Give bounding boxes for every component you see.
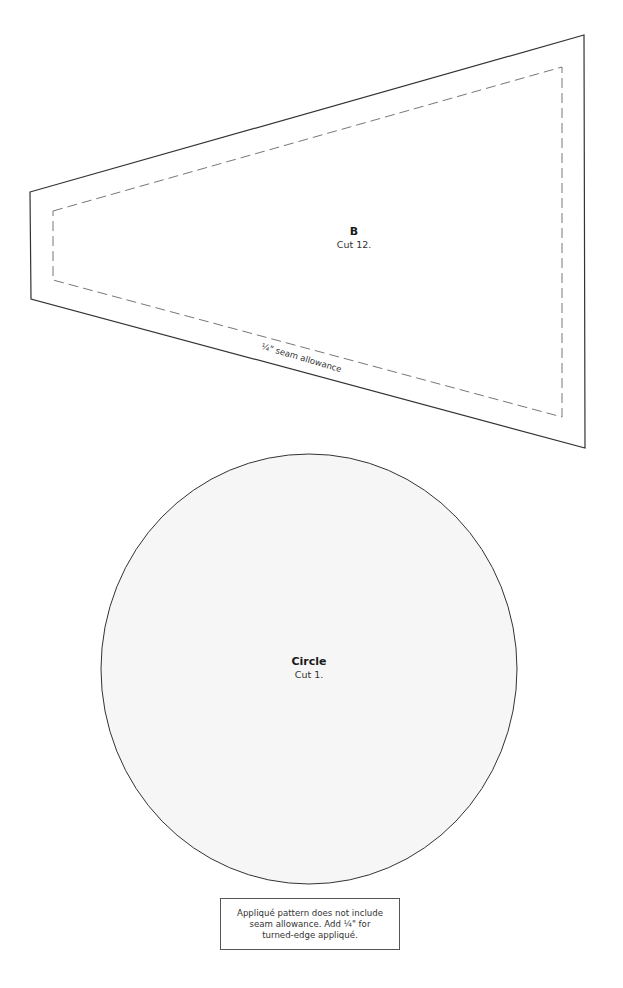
pattern-b-cut-line xyxy=(30,35,585,448)
circle-cut-instruction: Cut 1. xyxy=(295,669,323,680)
note-line: Appliqué pattern does not include xyxy=(221,908,399,919)
pattern-b-cut-instruction: Cut 12. xyxy=(337,239,372,250)
circle-title: Circle xyxy=(291,656,326,668)
applique-note-box: Appliqué pattern does not include seam a… xyxy=(220,898,400,950)
pattern-b-title: B xyxy=(350,226,358,238)
pattern-sheet xyxy=(0,0,623,988)
note-line: seam allowance. Add ¼" for xyxy=(221,919,399,930)
note-line: turned-edge appliqué. xyxy=(221,930,399,941)
